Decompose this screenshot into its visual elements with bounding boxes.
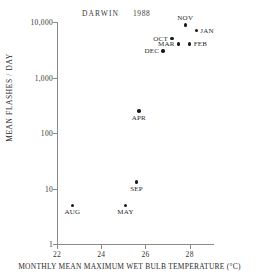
plot-area: 1101001,00010,000 22242628 NOVJANOCTMARF… <box>57 14 214 244</box>
data-point-may <box>124 204 127 207</box>
y-tick-label-2: 100 <box>41 129 53 138</box>
data-point-label-dec: DEC <box>144 47 159 55</box>
y-tick-label-3: 1,000 <box>35 73 53 82</box>
data-point-aug <box>71 204 74 207</box>
data-point-label-jan: JAN <box>200 27 214 35</box>
x-tick-1 <box>101 244 102 249</box>
x-axis-title: MONTHLY MEAN MAXIMUM WET BULB TEMPERATUR… <box>0 262 259 271</box>
x-tick-3 <box>190 244 191 249</box>
y-tick-label-1: 10 <box>45 184 53 193</box>
data-point-sep <box>135 180 138 183</box>
data-point-label-apr: APR <box>132 114 146 122</box>
y-tick-3 <box>53 78 58 79</box>
data-point-feb <box>188 42 191 45</box>
data-point-mar <box>177 42 180 45</box>
y-tick-1 <box>53 189 58 190</box>
y-tick-4 <box>53 22 58 23</box>
data-point-nov <box>184 23 187 26</box>
data-point-apr <box>137 109 140 112</box>
x-tick-label-0: 22 <box>53 250 61 259</box>
x-tick-label-2: 26 <box>141 250 149 259</box>
data-point-jan <box>195 29 198 32</box>
y-tick-label-4: 10,000 <box>31 18 53 27</box>
data-point-label-feb: FEB <box>194 40 208 48</box>
data-point-label-mar: MAR <box>158 40 175 48</box>
x-tick-label-3: 28 <box>186 250 194 259</box>
x-tick-2 <box>145 244 146 249</box>
scatter-chart-figure: DARWIN1988 1101001,00010,000 22242628 NO… <box>0 0 259 279</box>
data-point-label-nov: NOV <box>177 14 193 22</box>
data-point-label-aug: AUG <box>65 208 81 216</box>
y-axis-title: MEAN FLASHES / DAY <box>5 18 14 178</box>
data-point-label-sep: SEP <box>130 185 143 193</box>
data-point-dec <box>161 49 164 52</box>
y-tick-label-0: 1 <box>49 240 53 249</box>
data-point-label-may: MAY <box>117 208 133 216</box>
x-tick-label-1: 24 <box>97 250 105 259</box>
x-tick-0 <box>57 244 58 249</box>
y-tick-2 <box>53 133 58 134</box>
